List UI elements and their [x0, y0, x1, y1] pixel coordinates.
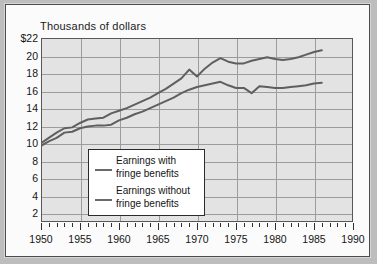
x-axis-minor-tick — [330, 223, 331, 227]
x-axis-minor-tick — [174, 223, 175, 227]
y-axis-tick-label: 4 — [32, 190, 38, 202]
x-axis-minor-tick — [283, 223, 284, 227]
x-axis-tick-label: 1965 — [146, 233, 169, 245]
x-axis-major-tick — [353, 223, 354, 230]
x-axis-tick-label: 1970 — [185, 233, 208, 245]
x-axis-ticks — [41, 223, 353, 232]
x-axis-minor-tick — [228, 223, 229, 227]
x-axis-minor-tick — [57, 223, 58, 227]
y-axis-tick-label: 14 — [26, 102, 38, 114]
x-axis-minor-tick — [166, 223, 167, 227]
x-axis-tick-label: 1960 — [107, 233, 130, 245]
y-axis-tick-label: 8 — [32, 155, 38, 167]
x-axis-minor-tick — [291, 223, 292, 227]
y-axis-tick-label: $22 — [20, 32, 38, 44]
x-axis-major-tick — [314, 223, 315, 230]
x-axis-tick-label: 1990 — [341, 233, 364, 245]
x-axis-minor-tick — [72, 223, 73, 227]
x-axis-minor-tick — [244, 223, 245, 227]
x-axis-minor-tick — [345, 223, 346, 227]
legend-label: fringe benefits — [116, 168, 179, 180]
y-axis-labels: $222018161412108642 — [6, 38, 38, 222]
legend-label: Earnings without — [116, 185, 190, 197]
x-axis-minor-tick — [64, 223, 65, 227]
x-axis-minor-tick — [142, 223, 143, 227]
chart-title: Thousands of dollars — [40, 20, 146, 32]
y-axis-tick-label: 10 — [26, 137, 38, 149]
x-axis-minor-tick — [267, 223, 268, 227]
page-background: Thousands of dollars $222018161412108642… — [0, 0, 377, 264]
x-axis-major-tick — [158, 223, 159, 230]
x-axis-labels: 195019551960196519701975198019851990 — [41, 233, 353, 249]
y-axis-tick-label: 12 — [26, 120, 38, 132]
x-axis-minor-tick — [111, 223, 112, 227]
x-axis-minor-tick — [252, 223, 253, 227]
y-axis-tick-label: 6 — [32, 172, 38, 184]
x-axis-minor-tick — [322, 223, 323, 227]
x-axis-minor-tick — [220, 223, 221, 227]
legend-label: Earnings with — [116, 155, 176, 167]
x-axis-minor-tick — [213, 223, 214, 227]
x-axis-minor-tick — [259, 223, 260, 227]
legend-swatch — [95, 199, 112, 201]
x-axis-major-tick — [119, 223, 120, 230]
x-axis-major-tick — [236, 223, 237, 230]
x-axis-minor-tick — [135, 223, 136, 227]
x-axis-major-tick — [275, 223, 276, 230]
x-axis-minor-tick — [127, 223, 128, 227]
legend-swatch — [95, 169, 112, 171]
series-line-without-fringe-benefits — [41, 82, 322, 146]
x-axis-major-tick — [80, 223, 81, 230]
x-axis-tick-label: 1950 — [29, 233, 52, 245]
x-axis-minor-tick — [96, 223, 97, 227]
y-axis-tick-label: 20 — [26, 50, 38, 62]
x-axis-minor-tick — [49, 223, 50, 227]
x-axis-tick-label: 1975 — [224, 233, 247, 245]
x-axis-minor-tick — [88, 223, 89, 227]
x-axis-minor-tick — [103, 223, 104, 227]
x-axis-minor-tick — [337, 223, 338, 227]
y-axis-tick-label: 2 — [32, 207, 38, 219]
y-axis-tick-label: 18 — [26, 67, 38, 79]
x-axis-minor-tick — [306, 223, 307, 227]
x-axis-minor-tick — [205, 223, 206, 227]
line-chart: Thousands of dollars $222018161412108642… — [6, 5, 369, 256]
series-line-with-fringe-benefits — [41, 50, 322, 143]
x-axis-tick-label: 1985 — [302, 233, 325, 245]
x-axis-tick-label: 1980 — [263, 233, 286, 245]
y-axis-tick-label: 16 — [26, 85, 38, 97]
legend-label: fringe benefits — [116, 198, 179, 210]
x-axis-tick-label: 1955 — [68, 233, 91, 245]
figure-card: Thousands of dollars $222018161412108642… — [5, 4, 370, 257]
x-axis-minor-tick — [150, 223, 151, 227]
x-axis-minor-tick — [181, 223, 182, 227]
x-axis-minor-tick — [189, 223, 190, 227]
x-axis-minor-tick — [298, 223, 299, 227]
chart-legend: Earnings withfringe benefitsEarnings wit… — [88, 149, 205, 216]
x-axis-major-tick — [197, 223, 198, 230]
x-axis-major-tick — [41, 223, 42, 230]
